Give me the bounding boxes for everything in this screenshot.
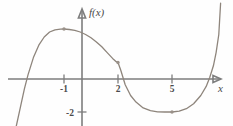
function-graph-figure: -1 2 5 -2 f(x) x: [0, 0, 233, 126]
x-tick-label-2: 2: [116, 84, 121, 94]
y-tick-label-minus2: -2: [66, 108, 74, 118]
y-axis: [78, 9, 85, 126]
x-tick-label-minus1: -1: [60, 84, 68, 94]
x-axis: [8, 75, 221, 82]
x-axis-title: x: [217, 82, 223, 94]
plot-canvas: -1 2 5 -2 f(x) x: [0, 0, 233, 126]
marker-local-maximum: [62, 27, 65, 30]
marker-inflection-point: [116, 61, 119, 64]
x-tick-label-5: 5: [170, 84, 175, 94]
curve-markers: [62, 27, 173, 113]
marker-local-minimum: [170, 110, 173, 113]
function-curve: [16, 3, 220, 126]
y-axis-title: f(x): [89, 6, 105, 19]
